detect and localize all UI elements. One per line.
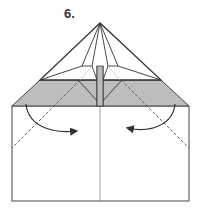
paper-body — [12, 106, 189, 201]
origami-diagram — [0, 0, 201, 210]
center-flap — [97, 66, 103, 106]
